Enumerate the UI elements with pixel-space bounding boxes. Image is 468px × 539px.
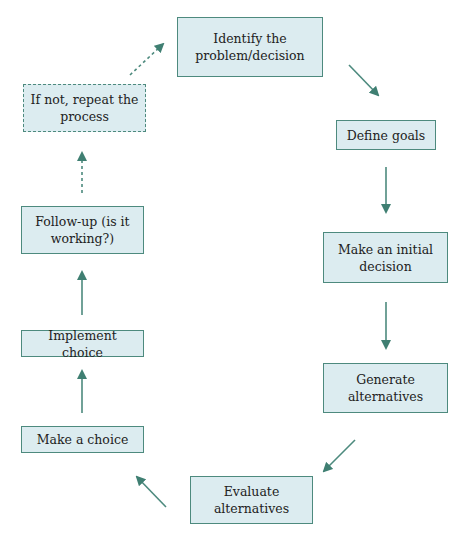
node-label: Define goals bbox=[347, 127, 426, 144]
node-label: Make a choice bbox=[37, 431, 129, 448]
arrow-generate-to-evaluate bbox=[324, 440, 355, 471]
node-define-goals: Define goals bbox=[336, 120, 436, 150]
node-identify-problem: Identify the problem/decision bbox=[177, 17, 323, 77]
node-follow-up: Follow-up (is it working?) bbox=[21, 206, 144, 254]
arrow-identify-to-define bbox=[349, 65, 378, 95]
node-label: Make an initial decision bbox=[330, 241, 441, 275]
node-label: Implement choice bbox=[28, 327, 137, 361]
node-label: Identify the problem/decision bbox=[184, 30, 316, 64]
node-label: Evaluate alternatives bbox=[197, 483, 306, 517]
arrow-repeat-to-identify bbox=[130, 44, 163, 75]
arrow-evaluate-to-choice bbox=[137, 477, 166, 507]
node-evaluate-alternatives: Evaluate alternatives bbox=[190, 476, 313, 524]
node-make-choice: Make a choice bbox=[21, 426, 144, 453]
node-initial-decision: Make an initial decision bbox=[323, 232, 448, 283]
node-repeat-process: If not, repeat the process bbox=[23, 84, 146, 132]
node-implement-choice: Implement choice bbox=[21, 330, 144, 357]
node-generate-alternatives: Generate alternatives bbox=[323, 363, 448, 413]
node-label: Follow-up (is it working?) bbox=[28, 213, 137, 247]
node-label: If not, repeat the process bbox=[30, 91, 139, 125]
node-label: Generate alternatives bbox=[330, 371, 441, 405]
